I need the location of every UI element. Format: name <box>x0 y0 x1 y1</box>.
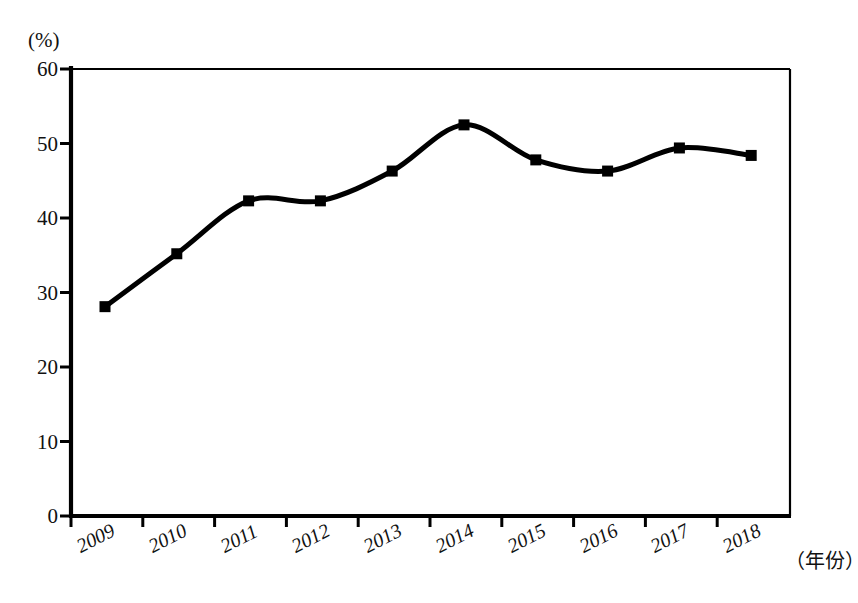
data-point-marker <box>243 195 254 206</box>
data-point-marker <box>530 154 541 165</box>
data-point-marker <box>674 142 685 153</box>
y-axis-tick-label: 20 <box>37 357 58 378</box>
data-point-marker <box>315 195 326 206</box>
y-axis-tick-label: 0 <box>48 506 59 527</box>
data-point-marker <box>459 119 470 130</box>
data-point-marker <box>746 150 757 161</box>
y-axis-tick-label: 10 <box>37 431 58 452</box>
data-line <box>105 125 751 307</box>
y-axis-tick-label: 30 <box>37 282 58 303</box>
data-markers <box>100 119 757 312</box>
y-axis-tick-label: 60 <box>37 59 58 80</box>
plot-area <box>0 0 858 603</box>
line-chart: (%) 0102030405060 2009201020112012201320… <box>0 0 858 603</box>
y-axis-tick-label: 50 <box>37 133 58 154</box>
y-axis-tick-label: 40 <box>37 208 58 229</box>
plot-frame <box>69 66 791 518</box>
data-point-marker <box>100 301 111 312</box>
x-axis-tick-labels: 2009201020112012201320142015201620172018… <box>0 529 858 603</box>
data-point-marker <box>387 166 398 177</box>
data-point-marker <box>602 166 613 177</box>
data-point-marker <box>171 248 182 259</box>
x-axis-name: （年份） <box>785 551 858 571</box>
y-axis-tick-labels: 0102030405060 <box>0 0 58 603</box>
